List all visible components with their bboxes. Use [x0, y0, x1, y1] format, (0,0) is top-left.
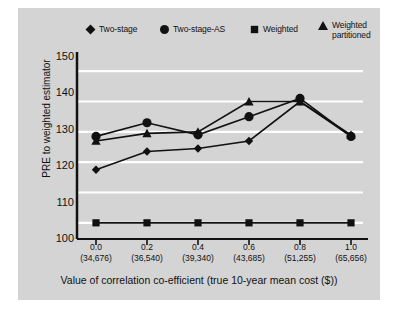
square-marker-icon — [194, 219, 201, 226]
square-marker-icon — [296, 219, 303, 226]
square-marker-icon — [92, 219, 99, 226]
legend-label: Weighted — [263, 24, 298, 34]
x-tick-cost: (65,656) — [321, 253, 381, 264]
y-axis-tick-labels: 100 110 120 130 140 150 — [32, 56, 74, 238]
square-marker-icon — [143, 219, 150, 226]
circle-marker-icon — [142, 118, 151, 127]
legend-label: Two-stage — [99, 24, 137, 34]
plot-area — [78, 56, 363, 238]
legend-item-two-stage-as: Two-stage-AS — [160, 24, 225, 34]
diamond-marker-icon — [92, 166, 100, 174]
square-marker-icon — [347, 219, 354, 226]
gridlines — [78, 71, 363, 223]
square-marker-icon — [245, 219, 252, 226]
circle-marker-icon — [160, 25, 169, 34]
diamond-marker-icon — [86, 25, 96, 35]
square-marker-icon — [251, 26, 258, 33]
diamond-marker-icon — [194, 144, 202, 152]
x-tick-value: 1.0 — [321, 242, 381, 253]
chart-legend: Two-stage Two-stage-AS Weighted Weighted… — [18, 20, 380, 46]
legend-item-weighted: Weighted — [250, 24, 298, 34]
data-series-layer — [91, 94, 355, 227]
triangle-marker-icon — [318, 21, 328, 30]
legend-item-two-stage: Two-stage — [86, 24, 137, 34]
legend-item-weighted-partitioned: Weighted partitioned — [318, 20, 371, 40]
plot-svg — [78, 56, 363, 238]
chart-figure: Two-stage Two-stage-AS Weighted Weighted… — [18, 8, 380, 300]
x-tick-label-group: 1.0(65,656) — [321, 242, 381, 264]
legend-label: Two-stage-AS — [173, 24, 225, 34]
legend-label: Weighted partitioned — [332, 20, 371, 40]
y-axis-title: PRE to weighted estimator — [41, 29, 52, 209]
circle-marker-icon — [244, 112, 253, 121]
x-axis-title: Value of correlation co-efficient (true … — [18, 274, 380, 286]
x-axis-tick-labels: 0.0(34,676)0.2(36,540)0.4(39,340)0.6(43,… — [78, 242, 363, 272]
diamond-marker-icon — [143, 147, 151, 155]
